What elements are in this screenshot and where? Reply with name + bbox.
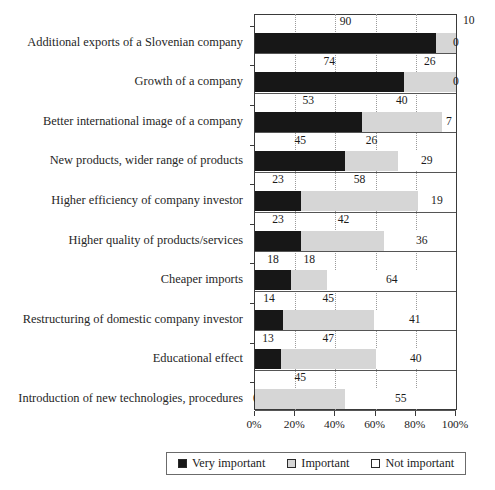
value-label-not-important: 0	[453, 76, 459, 88]
category-tick-3	[250, 145, 255, 146]
value-label-not-important: 36	[416, 235, 428, 247]
value-label-very-important: 90	[340, 16, 352, 28]
value-label-not-important: 7	[446, 116, 452, 128]
bar-segment-important	[255, 389, 345, 409]
category-tick-2	[250, 105, 255, 106]
category-tick-0	[250, 26, 255, 27]
category-tick-9	[250, 382, 255, 383]
bar-segment-very-important	[255, 231, 301, 251]
row-separator	[255, 370, 456, 371]
value-label-very-important: 23	[272, 214, 284, 226]
bar-row: 0	[255, 33, 456, 53]
x-tick-100	[455, 411, 456, 416]
value-label-important: 45	[323, 293, 335, 305]
category-tick-4	[250, 184, 255, 185]
bar-segment-very-important	[255, 349, 281, 369]
plot-area: 9007426053407452629235819234236181864144…	[254, 14, 457, 410]
category-tick-1	[250, 65, 255, 66]
row-separator	[255, 93, 456, 94]
value-label-very-important: 23	[272, 174, 284, 186]
bar-row: 055	[255, 389, 456, 409]
bar-segment-important	[283, 310, 373, 330]
category-label: New products, wider range of products	[50, 154, 243, 167]
value-label-very-important: 53	[302, 95, 314, 107]
value-label-important: 58	[354, 174, 366, 186]
bar-row: 41	[255, 310, 456, 330]
bar-segment-important	[301, 231, 385, 251]
value-label-very-important: 18	[267, 254, 279, 266]
bar-row: 0	[255, 72, 456, 92]
value-label-important: 45	[294, 372, 306, 384]
bar-segment-very-important	[255, 112, 362, 132]
value-label-important-outside: 10	[463, 14, 475, 27]
legend-item-important[interactable]: Important	[287, 456, 349, 471]
bar-segment-important	[281, 349, 375, 369]
bar-segment-very-important	[255, 191, 301, 211]
legend-item-very-important[interactable]: Very important	[178, 456, 265, 471]
legend-label: Important	[301, 456, 349, 471]
x-tick-label: 0%	[246, 418, 261, 430]
x-tick-label: 20%	[284, 418, 305, 430]
value-label-important: 40	[396, 95, 408, 107]
row-separator	[255, 291, 456, 292]
bar-segment-very-important	[255, 72, 404, 92]
value-label-not-important: 29	[421, 155, 433, 167]
row-separator	[255, 212, 456, 213]
value-label-very-important: 45	[294, 135, 306, 147]
bar-segment-important	[362, 112, 442, 132]
category-tick-6	[250, 263, 255, 264]
bar-segment-very-important	[255, 270, 291, 290]
bar-segment-important	[404, 72, 456, 92]
category-label: Growth of a company	[135, 75, 243, 88]
bar-segment-very-important	[255, 151, 345, 171]
legend-item-not-important[interactable]: Not important	[371, 456, 454, 471]
category-tick-8	[250, 343, 255, 344]
bar-segment-very-important	[255, 310, 283, 330]
category-tick-7	[250, 303, 255, 304]
category-label: Restructuring of domestic company invest…	[23, 313, 243, 326]
value-label-important: 42	[338, 214, 350, 226]
x-tick-label: 100%	[442, 418, 469, 430]
category-label: Better international image of a company	[43, 115, 243, 128]
bar-row: 29	[255, 151, 456, 171]
category-label: Educational effect	[153, 352, 243, 365]
bar-row: 40	[255, 349, 456, 369]
value-label-very-important: 14	[263, 293, 275, 305]
category-label: Higher efficiency of company investor	[51, 194, 243, 207]
bar-row: 7	[255, 112, 456, 132]
value-label-very-important: 13	[262, 333, 274, 345]
value-label-not-important: 55	[395, 393, 407, 405]
bar-row: 64	[255, 270, 456, 290]
value-label-important: 47	[323, 333, 335, 345]
white-square-icon	[371, 459, 380, 468]
chart-figure: Additional exports of a Slovenian compan…	[0, 0, 495, 490]
value-label-not-important: 41	[409, 314, 421, 326]
value-label-not-important: 40	[410, 353, 422, 365]
category-label: Additional exports of a Slovenian compan…	[27, 36, 243, 49]
x-tick-0	[254, 411, 255, 416]
x-tick-label: 60%	[364, 418, 385, 430]
x-tick-label: 40%	[324, 418, 345, 430]
category-tick-5	[250, 224, 255, 225]
x-tick-label: 80%	[404, 418, 425, 430]
gray-square-icon	[287, 459, 296, 468]
bar-row: 19	[255, 191, 456, 211]
bar-segment-important	[345, 151, 397, 171]
chart-legend: Very importantImportantNot important	[166, 452, 466, 475]
row-separator	[255, 251, 456, 252]
black-square-icon	[178, 459, 187, 468]
value-label-important: 26	[366, 135, 378, 147]
category-label: Introduction of new technologies, proced…	[18, 392, 243, 405]
legend-label: Not important	[385, 456, 454, 471]
x-tick-60	[375, 411, 376, 416]
bar-segment-important	[291, 270, 327, 290]
plot-top-border	[255, 14, 456, 15]
value-axis: 0%20%40%60%80%100%	[254, 411, 455, 435]
x-tick-20	[294, 411, 295, 416]
value-label-important: 18	[303, 254, 315, 266]
legend-label: Very important	[192, 456, 265, 471]
row-separator	[255, 132, 456, 133]
value-label-not-important: 64	[386, 274, 398, 286]
value-label-important: 26	[424, 56, 436, 68]
bar-segment-very-important	[255, 33, 436, 53]
